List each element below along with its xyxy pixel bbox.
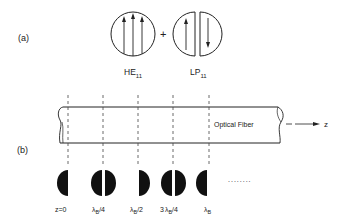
pattern-half-icon [139, 170, 150, 196]
position-markers [68, 95, 209, 165]
position-label-half: λB/2 [130, 206, 143, 215]
lp11-label: LP11 [190, 67, 207, 79]
position-label-full: λB [204, 206, 212, 215]
continuation-ellipsis: ........ [228, 176, 252, 183]
pattern-quarter-icon [91, 170, 116, 196]
part-b-label: (b) [17, 145, 28, 155]
pattern-full-icon [196, 170, 207, 196]
pattern-three-quarter-icon [161, 170, 186, 196]
position-label-three-quarter: 3λB/4 [160, 206, 178, 215]
part-a-label: (a) [18, 33, 29, 43]
fiber-label: Optical Fiber [214, 121, 254, 129]
plus-sign: + [160, 28, 166, 40]
mode-beating-diagram: (a) HE11 + LP11 (b) Optical Fiber [0, 0, 356, 222]
z-axis-arrow [286, 122, 320, 126]
position-label-quarter: λB/4 [92, 206, 105, 215]
he11-mode-icon [111, 12, 155, 56]
pattern-z0-icon [57, 170, 68, 196]
lp11-mode-icon [173, 12, 222, 56]
he11-label: HE11 [124, 67, 143, 79]
position-label-z0: z=0 [55, 206, 67, 213]
z-axis-label: z [324, 120, 328, 129]
